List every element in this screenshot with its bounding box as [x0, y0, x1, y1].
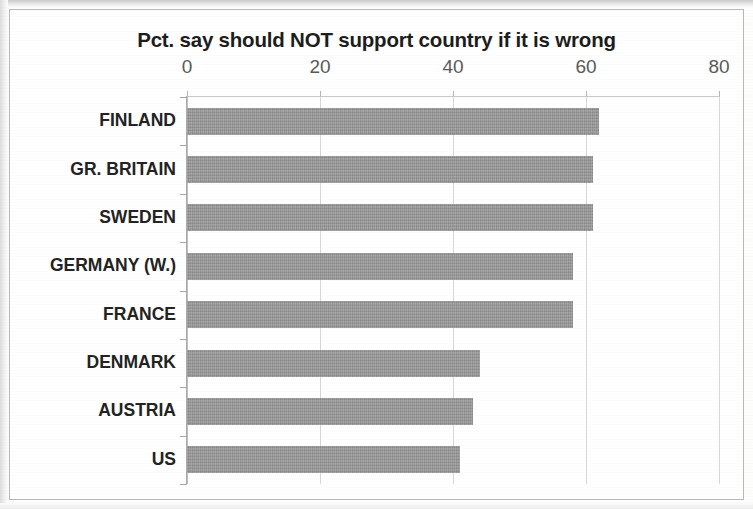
bar — [187, 301, 573, 328]
bar-row — [187, 350, 480, 377]
x-axis-tick-label: 40 — [442, 56, 463, 78]
chart-title: Pct. say should NOT support country if i… — [9, 28, 744, 52]
x-axis-tick-labels: 020406080 — [0, 56, 753, 82]
y-axis-tickmark — [180, 484, 187, 485]
x-axis-tick-label: 80 — [708, 56, 729, 78]
x-axis-tick-label: 0 — [182, 56, 193, 78]
bar-row — [187, 301, 573, 328]
bar-row — [187, 204, 593, 231]
y-axis-tickmark — [180, 436, 187, 437]
bar — [187, 350, 480, 377]
chart-screenshot: Pct. say should NOT support country if i… — [0, 0, 753, 509]
gridline — [453, 97, 454, 484]
y-axis-tickmark — [180, 291, 187, 292]
bar-row — [187, 156, 593, 183]
y-axis-tickmark — [180, 339, 187, 340]
bar — [187, 156, 593, 183]
bar-row — [187, 446, 460, 473]
bar — [187, 204, 593, 231]
bar-row — [187, 253, 573, 280]
gridline — [719, 97, 720, 484]
gridline — [586, 97, 587, 484]
bar — [187, 398, 473, 425]
plot-area — [187, 97, 719, 484]
scan-edge-top — [0, 0, 753, 7]
scan-edge-bottom — [0, 503, 753, 509]
bar — [187, 253, 573, 280]
bar-row — [187, 108, 599, 135]
x-axis-tick-label: 60 — [575, 56, 596, 78]
y-axis-tickmark — [180, 194, 187, 195]
bar — [187, 446, 460, 473]
y-axis-tickmark — [180, 242, 187, 243]
y-axis-tickmark — [180, 387, 187, 388]
gridline — [320, 97, 321, 484]
gridline — [187, 97, 188, 484]
y-axis-tickmark — [180, 97, 187, 98]
bar — [187, 108, 599, 135]
x-axis-tick-label: 20 — [309, 56, 330, 78]
bar-row — [187, 398, 473, 425]
y-axis-tickmark — [180, 145, 187, 146]
